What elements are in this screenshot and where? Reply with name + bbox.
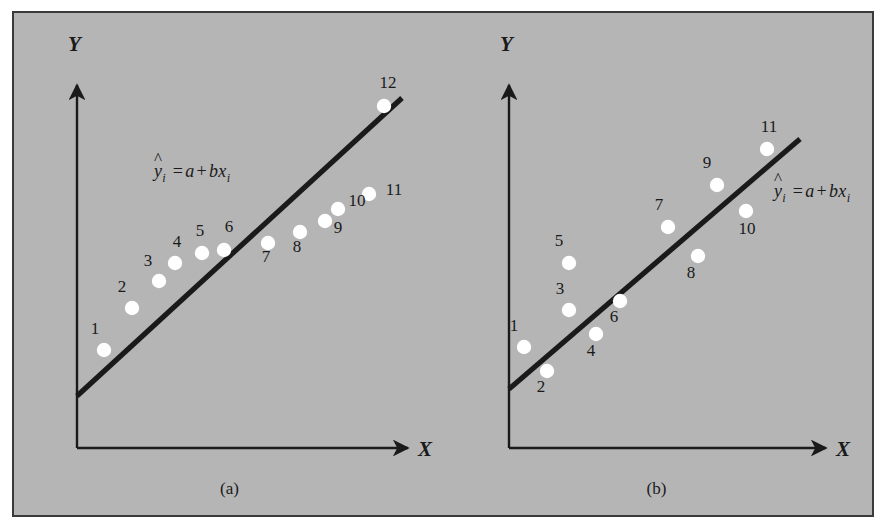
data-point-label: 1 — [91, 319, 100, 338]
data-point — [152, 274, 166, 288]
data-point — [691, 249, 705, 263]
data-point-label: 4 — [587, 341, 596, 360]
data-point-label: 5 — [196, 221, 205, 240]
data-point-label: 3 — [556, 279, 565, 298]
data-point — [331, 202, 345, 216]
data-point — [760, 142, 774, 156]
y-axis-label-b: Y — [500, 32, 515, 56]
data-point — [562, 256, 576, 270]
data-point-label: 11 — [386, 180, 402, 199]
data-point — [562, 303, 576, 317]
x-axis-label-a: X — [417, 437, 433, 461]
regression-line-b — [509, 139, 800, 389]
regression-formula-b: ^yi =a+bxi — [774, 181, 850, 206]
data-point — [97, 343, 111, 357]
data-point-label: 6 — [610, 307, 619, 326]
figure-container: Y X 1 2 3 4 — [12, 11, 874, 517]
data-point — [318, 214, 332, 228]
data-point — [661, 220, 675, 234]
data-point-label: 1 — [510, 316, 519, 335]
data-point-label: 10 — [349, 191, 366, 210]
data-point — [589, 327, 603, 341]
data-point — [195, 246, 209, 260]
regression-formula-a: ^yi =a+bxi — [154, 161, 230, 186]
data-point-label: 3 — [144, 251, 153, 270]
panel-a: Y X 1 2 3 4 — [14, 13, 445, 519]
regression-line-a — [77, 98, 402, 396]
data-point-label: 10 — [739, 219, 756, 238]
data-point-label: 5 — [555, 231, 564, 250]
data-point-labels-a: 1 2 3 4 5 6 7 8 9 10 11 12 — [91, 73, 402, 338]
data-point-label: 8 — [293, 237, 302, 256]
panel-b-plot: Y X 1 2 3 4 5 6 — [441, 13, 872, 519]
data-point-label: 8 — [687, 263, 696, 282]
data-point-label: 6 — [225, 217, 234, 236]
panel-caption-b: (b) — [441, 479, 872, 499]
data-point — [377, 99, 391, 113]
y-axis-label-a: Y — [68, 32, 83, 56]
data-point-label: 9 — [334, 218, 343, 237]
data-point — [739, 204, 753, 218]
data-point — [710, 178, 724, 192]
x-axis-label-b: X — [835, 437, 851, 461]
data-point-label: 4 — [173, 232, 182, 251]
data-point-label: 2 — [118, 277, 127, 296]
panel-a-plot: Y X 1 2 3 4 — [14, 13, 445, 519]
data-point-label: 7 — [655, 195, 664, 214]
data-point — [217, 243, 231, 257]
panel-b: Y X 1 2 3 4 5 6 — [441, 13, 872, 519]
data-point-label: 9 — [703, 153, 712, 172]
data-point-label: 2 — [537, 377, 546, 396]
data-point — [125, 301, 139, 315]
data-point-label: 11 — [761, 117, 777, 136]
data-points-b — [517, 142, 774, 378]
data-point-label: 12 — [380, 73, 397, 92]
panel-caption-a: (a) — [14, 479, 445, 499]
data-points-a — [97, 99, 391, 357]
data-point-label: 7 — [262, 247, 271, 266]
data-point — [168, 256, 182, 270]
data-point — [517, 340, 531, 354]
